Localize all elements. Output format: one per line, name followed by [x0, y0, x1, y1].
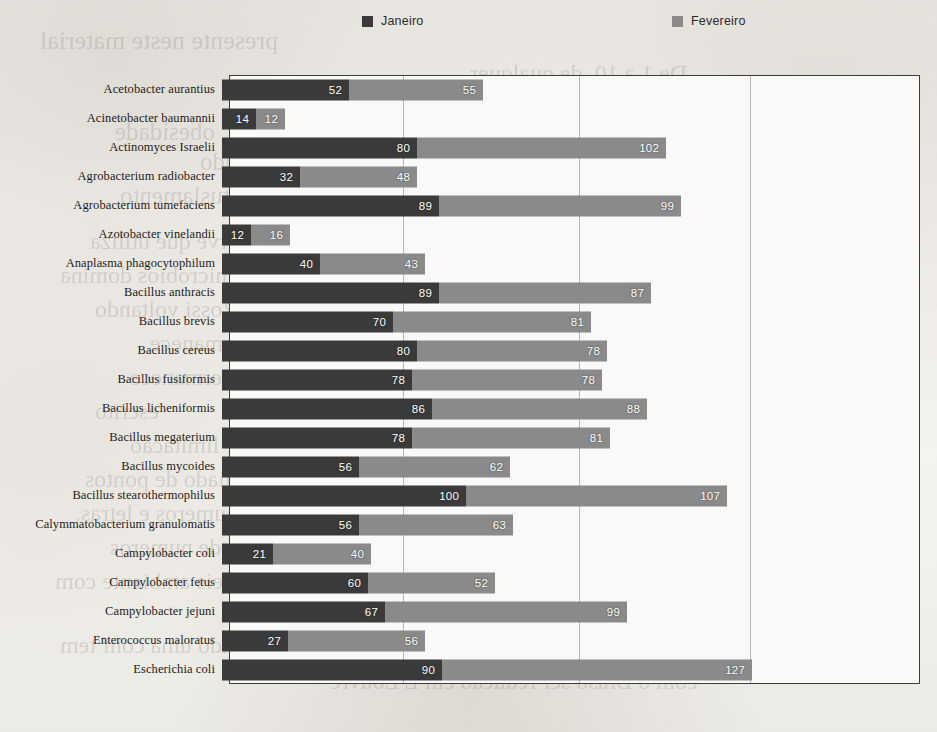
bar-segment-janeiro[interactable]: 70 — [222, 311, 393, 332]
stacked-bar[interactable]: 5662 — [222, 456, 510, 477]
chart-row: Acinetobacter baumannii1412 — [0, 104, 937, 133]
bar-segment-fevereiro[interactable]: 63 — [359, 514, 513, 535]
bar-segment-fevereiro[interactable]: 12 — [256, 108, 285, 129]
bar-segment-fevereiro[interactable]: 81 — [412, 427, 610, 448]
bar-value-label: 55 — [463, 84, 483, 96]
bar-segment-fevereiro[interactable]: 99 — [385, 601, 627, 622]
bar-segment-fevereiro[interactable]: 81 — [393, 311, 591, 332]
bar-segment-fevereiro[interactable]: 48 — [300, 166, 417, 187]
stacked-bar[interactable]: 4043 — [222, 253, 425, 274]
stacked-bar[interactable]: 1412 — [222, 108, 285, 129]
chart-row: Bacillus mycoides5662 — [0, 452, 937, 481]
chart-row: Actinomyces Israelii80102 — [0, 133, 937, 162]
bar-value-label: 56 — [339, 519, 359, 531]
bar-value-label: 89 — [419, 200, 439, 212]
bar-segment-fevereiro[interactable]: 62 — [359, 456, 510, 477]
bar-track: 8987 — [222, 278, 937, 307]
bar-value-label: 78 — [392, 374, 412, 386]
bar-value-label: 12 — [265, 113, 285, 125]
chart-row: Bacillus licheniformis8688 — [0, 394, 937, 423]
stacked-bar[interactable]: 8078 — [222, 340, 607, 361]
bar-track: 8999 — [222, 191, 937, 220]
stacked-bar[interactable]: 7878 — [222, 369, 602, 390]
chart-row: Campylobacter fetus6052 — [0, 568, 937, 597]
bar-segment-fevereiro[interactable]: 87 — [439, 282, 651, 303]
bar-segment-janeiro[interactable]: 80 — [222, 137, 417, 158]
chart-rows: Acetobacter aurantius5255Acinetobacter b… — [0, 75, 937, 684]
bar-value-label: 80 — [397, 345, 417, 357]
stacked-bar[interactable]: 5663 — [222, 514, 513, 535]
bar-segment-janeiro[interactable]: 12 — [222, 224, 251, 245]
bar-segment-fevereiro[interactable]: 78 — [412, 369, 602, 390]
bar-value-label: 127 — [725, 664, 752, 676]
bar-value-label: 63 — [493, 519, 513, 531]
bar-segment-fevereiro[interactable]: 16 — [251, 224, 290, 245]
bar-segment-janeiro[interactable]: 40 — [222, 253, 320, 274]
bar-segment-janeiro[interactable]: 32 — [222, 166, 300, 187]
bar-value-label: 102 — [639, 142, 666, 154]
stacked-bar[interactable]: 8999 — [222, 195, 681, 216]
bar-segment-fevereiro[interactable]: 88 — [432, 398, 647, 419]
stacked-bar[interactable]: 8688 — [222, 398, 647, 419]
category-label: Agrobacterium tumefaciens — [0, 198, 222, 213]
bar-segment-janeiro[interactable]: 14 — [222, 108, 256, 129]
bar-segment-janeiro[interactable]: 89 — [222, 282, 439, 303]
chart-row: Enterococcus maloratus2756 — [0, 626, 937, 655]
stacked-bar[interactable]: 3248 — [222, 166, 417, 187]
bar-segment-janeiro[interactable]: 90 — [222, 659, 442, 680]
category-label: Bacillus brevis — [0, 314, 222, 329]
bar-segment-janeiro[interactable]: 52 — [222, 79, 349, 100]
stacked-bar[interactable]: 80102 — [222, 137, 666, 158]
stacked-bar[interactable]: 7881 — [222, 427, 610, 448]
bar-segment-janeiro[interactable]: 27 — [222, 630, 288, 651]
stacked-bar[interactable]: 8987 — [222, 282, 651, 303]
chart-row: Agrobacterium radiobacter3248 — [0, 162, 937, 191]
bar-track: 5663 — [222, 510, 937, 539]
bar-track: 5662 — [222, 452, 937, 481]
bar-segment-janeiro[interactable]: 56 — [222, 514, 359, 535]
stacked-bar[interactable]: 2756 — [222, 630, 425, 651]
bar-segment-janeiro[interactable]: 56 — [222, 456, 359, 477]
bar-segment-fevereiro[interactable]: 40 — [273, 543, 371, 564]
stacked-bar[interactable]: 5255 — [222, 79, 483, 100]
bar-segment-janeiro[interactable]: 80 — [222, 340, 417, 361]
chart-legend: Janeiro Fevereiro — [0, 14, 937, 40]
category-label: Campylobacter fetus — [0, 575, 222, 590]
bar-segment-fevereiro[interactable]: 43 — [320, 253, 425, 274]
bar-segment-janeiro[interactable]: 100 — [222, 485, 466, 506]
stacked-bar[interactable]: 2140 — [222, 543, 371, 564]
chart-row: Bacillus stearothermophilus100107 — [0, 481, 937, 510]
category-label: Calymmatobacterium granulomatis — [0, 517, 222, 532]
bar-segment-fevereiro[interactable]: 102 — [417, 137, 666, 158]
bar-segment-fevereiro[interactable]: 52 — [368, 572, 495, 593]
bar-segment-janeiro[interactable]: 67 — [222, 601, 385, 622]
bar-segment-janeiro[interactable]: 89 — [222, 195, 439, 216]
stacked-bar[interactable]: 100107 — [222, 485, 727, 506]
chart-row: Campylobacter coli2140 — [0, 539, 937, 568]
category-label: Enterococcus maloratus — [0, 633, 222, 648]
bar-segment-janeiro[interactable]: 78 — [222, 369, 412, 390]
category-label: Bacillus stearothermophilus — [0, 488, 222, 503]
stacked-bar[interactable]: 6052 — [222, 572, 495, 593]
bar-segment-fevereiro[interactable]: 55 — [349, 79, 483, 100]
bar-segment-fevereiro[interactable]: 56 — [288, 630, 425, 651]
bar-track: 8688 — [222, 394, 937, 423]
bar-segment-janeiro[interactable]: 86 — [222, 398, 432, 419]
stacked-bar[interactable]: 1216 — [222, 224, 290, 245]
bar-segment-janeiro[interactable]: 78 — [222, 427, 412, 448]
chart-row: Calymmatobacterium granulomatis5663 — [0, 510, 937, 539]
bar-segment-janeiro[interactable]: 60 — [222, 572, 368, 593]
bar-value-label: 67 — [365, 606, 385, 618]
bar-segment-fevereiro[interactable]: 127 — [442, 659, 752, 680]
category-label: Bacillus licheniformis — [0, 401, 222, 416]
bar-segment-fevereiro[interactable]: 107 — [466, 485, 727, 506]
bar-value-label: 40 — [351, 548, 371, 560]
stacked-bar[interactable]: 6799 — [222, 601, 627, 622]
bar-segment-fevereiro[interactable]: 78 — [417, 340, 607, 361]
bar-segment-janeiro[interactable]: 21 — [222, 543, 273, 564]
stacked-bar[interactable]: 90127 — [222, 659, 752, 680]
chart-row: Azotobacter vinelandii1216 — [0, 220, 937, 249]
bar-segment-fevereiro[interactable]: 99 — [439, 195, 681, 216]
bar-value-label: 56 — [405, 635, 425, 647]
stacked-bar[interactable]: 7081 — [222, 311, 591, 332]
